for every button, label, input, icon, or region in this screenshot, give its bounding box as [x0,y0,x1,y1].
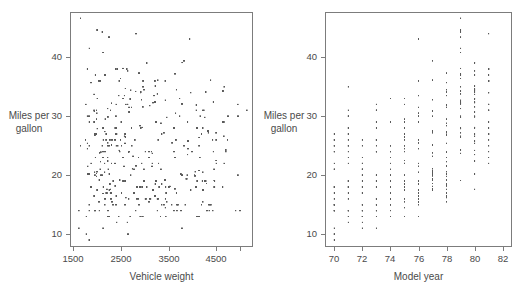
x-tick-label: 78 [442,254,453,264]
y-tick-mark [321,175,325,176]
x-tick-mark [216,247,217,251]
y-tick-label: 20 [36,170,62,180]
y-axis-title-line1: Miles per [255,110,313,123]
x-tick-mark [447,247,448,251]
x-tick-mark [503,247,504,251]
scatter-points-weight [71,13,252,246]
x-tick-label: 82 [498,254,509,264]
y-axis-title-year: Miles per gallon [255,110,313,135]
x-tick-label: 72 [357,254,368,264]
x-tick-mark [362,247,363,251]
y-tick-mark [321,234,325,235]
scatterplot-figure: 102030401500250035004500 Miles per gallo… [0,0,527,293]
x-tick-label: 70 [329,254,340,264]
x-tick-label: 74 [385,254,396,264]
y-axis-title-line2: gallon [0,122,58,135]
plot-area-year [325,12,512,247]
x-axis-title-year: Model year [394,271,443,284]
y-tick-mark [321,57,325,58]
y-tick-label: 20 [291,170,317,180]
y-tick-label: 40 [291,52,317,62]
y-tick-label: 10 [291,229,317,239]
x-tick-mark [169,247,170,251]
x-tick-mark [334,247,335,251]
plot-area-weight [70,12,253,247]
x-tick-mark [121,247,122,251]
y-tick-label: 40 [36,52,62,62]
y-axis-title-weight: Miles per gallon [0,110,58,135]
x-tick-mark [390,247,391,251]
y-tick-mark [321,116,325,117]
panel-mpg-vs-weight: 102030401500250035004500 Miles per gallo… [0,0,263,293]
x-tick-label: 80 [470,254,481,264]
y-axis-title-line1: Miles per [0,110,58,123]
x-tick-label: 3500 [158,254,179,264]
x-tick-mark [475,247,476,251]
x-tick-label: 2500 [110,254,131,264]
y-tick-label: 10 [36,229,62,239]
x-axis-title-weight: Vehicle weight [130,271,194,284]
scatter-points-year [326,13,511,246]
y-tick-mark [66,57,70,58]
x-tick-label: 76 [414,254,425,264]
panel-mpg-vs-model-year: 1020304070727476788082 Miles per gallon … [264,0,527,293]
y-tick-mark [66,234,70,235]
x-tick-label: 4500 [205,254,226,264]
y-tick-mark [66,175,70,176]
x-tick-label: 1500 [62,254,83,264]
y-tick-mark [66,116,70,117]
y-axis-title-line2: gallon [255,122,313,135]
x-tick-mark [419,247,420,251]
x-tick-mark [73,247,74,251]
x-tick-mark [240,247,241,251]
